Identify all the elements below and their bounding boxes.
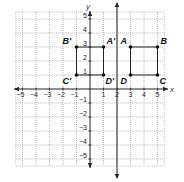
- y-tick-label: −5: [79, 152, 87, 159]
- label-b: B: [161, 36, 168, 46]
- y-tick-label: 1: [83, 68, 87, 75]
- coordinate-plane: −5−4−3−2−11234554321−1−2−3−4−5 ABCDA'B'C…: [0, 0, 184, 182]
- point-b-prime: [75, 45, 79, 49]
- point-a: [129, 45, 133, 49]
- x-axis-label: x: [169, 85, 175, 94]
- y-tick-label: −3: [79, 124, 87, 131]
- arrow-down-icon: [115, 174, 119, 179]
- arrow-up-icon: [115, 2, 119, 7]
- y-tick-label: 2: [83, 54, 87, 61]
- label-b-prime: B': [63, 36, 72, 46]
- x-tick-label: 3: [129, 91, 133, 98]
- point-b: [156, 45, 160, 49]
- label-d-prime: D': [106, 76, 115, 86]
- label-c: C: [160, 76, 167, 86]
- arrow-down-icon: [88, 163, 92, 168]
- y-tick-label: −2: [79, 110, 87, 117]
- y-tick-label: −4: [79, 138, 87, 145]
- axes: [14, 11, 168, 168]
- x-tick-label: 5: [156, 91, 160, 98]
- x-tick-label: −2: [57, 91, 65, 98]
- x-tick-label: 1: [102, 91, 106, 98]
- point-d: [129, 73, 133, 77]
- arrow-right-icon: [163, 87, 168, 91]
- label-a: A: [120, 36, 128, 46]
- x-tick-label: 4: [142, 91, 146, 98]
- y-axis-label: y: [85, 2, 91, 11]
- label-d: D: [121, 76, 128, 86]
- y-tick-label: −1: [79, 96, 87, 103]
- y-tick-label: 4: [83, 26, 87, 33]
- x-tick-label: −1: [71, 91, 79, 98]
- label-c-prime: C': [63, 76, 72, 86]
- y-tick-label: 3: [83, 40, 87, 47]
- x-tick-label: −4: [30, 91, 38, 98]
- y-tick-label: 5: [83, 12, 87, 19]
- point-c-prime: [75, 73, 79, 77]
- x-tick-label: −3: [44, 91, 52, 98]
- label-a-prime: A': [106, 36, 116, 46]
- tick-labels: −5−4−3−2−11234554321−1−2−3−4−5: [17, 12, 160, 160]
- point-a-prime: [102, 45, 106, 49]
- x-tick-label: −5: [17, 91, 25, 98]
